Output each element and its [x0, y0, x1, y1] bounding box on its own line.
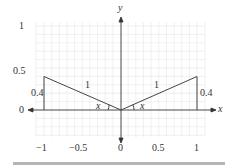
y-axis-up-arrow-icon [119, 17, 123, 22]
left-hypotenuse-label: 1 [85, 80, 90, 90]
right-hypotenuse-label: 1 [154, 80, 159, 90]
y-tick-1: 1 [19, 21, 24, 31]
x-tick-neg-0-5: −0.5 [69, 143, 87, 153]
axes [28, 17, 216, 143]
x-tick-1: 1 [194, 143, 199, 153]
grid [36, 22, 205, 137]
y-tick-0-5: 0.5 [13, 66, 26, 76]
x-tick-0-5: 0.5 [152, 143, 165, 153]
x-axis-right-arrow-icon [211, 108, 216, 112]
right-angle-label: x [140, 101, 144, 111]
left-height-label: 0.4 [31, 88, 44, 98]
y-tick-0: 0 [19, 105, 24, 115]
bottom-separator [13, 162, 225, 165]
left-angle-label: x [96, 101, 100, 111]
right-height-label: 0.4 [200, 88, 213, 98]
x-tick-0: 0 [118, 143, 123, 153]
x-axis-left-arrow-icon [28, 108, 33, 112]
y-axis-label: y [118, 3, 122, 13]
x-tick-neg-1: −1 [36, 143, 47, 153]
x-axis-label: x [218, 104, 222, 114]
right-angle-arc [133, 105, 134, 110]
left-angle-arc [108, 105, 109, 110]
